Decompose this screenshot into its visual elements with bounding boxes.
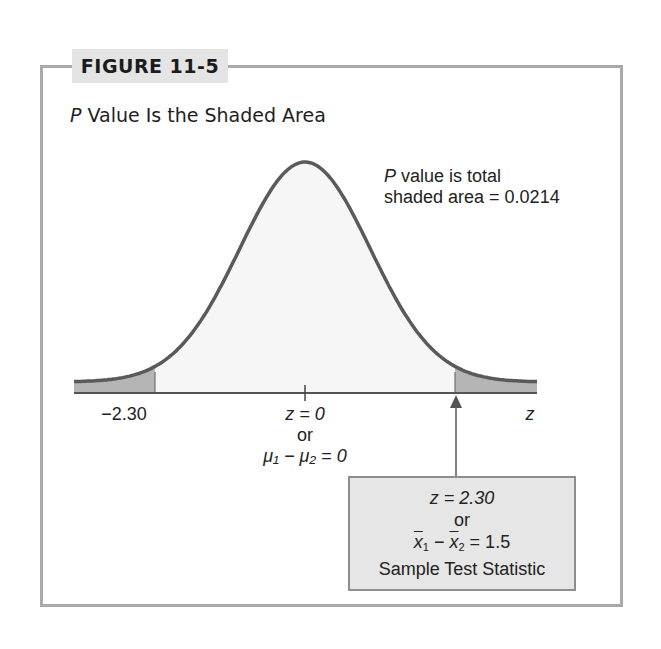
xbar1: x [414,532,423,552]
p-value-annotation: P value is total shaded area = 0.0214 [384,166,560,208]
center-label: z = 0 or μ₁ − μ₂ = 0 [225,404,385,467]
stat-or: or [454,509,470,531]
annot-line2: shaded area = 0.0214 [384,187,560,208]
arrow-up-icon [450,395,462,408]
stat-mean-difference: x1 − x2 = 1.5 [414,531,510,558]
annot-line1: value is total [396,166,501,186]
axis-variable-label: z [515,404,545,425]
test-statistic-box: z = 2.30 or x1 − x2 = 1.5 Sample Test St… [348,476,576,591]
left-tick-label: −2.30 [84,404,164,425]
minus: − [429,532,450,552]
annot-italic-p: P [384,166,396,186]
center-label-or: or [225,425,385,446]
diff-value: = 1.5 [465,532,511,552]
center-label-mu: μ₁ − μ₂ = 0 [225,446,385,467]
center-label-z: z = 0 [225,404,385,425]
stat-caption: Sample Test Statistic [379,558,546,580]
stat-z-value: z = 2.30 [430,487,495,509]
